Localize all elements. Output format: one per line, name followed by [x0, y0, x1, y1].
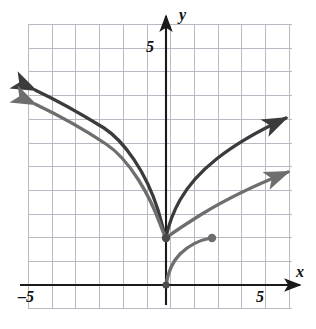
gridlines — [28, 24, 292, 309]
y-tick-label-5: 5 — [146, 38, 154, 56]
vertex-dot-at-0-1 — [162, 234, 170, 242]
y-axis-label: y — [179, 6, 186, 24]
point-dot-at-1p6-1 — [208, 234, 216, 242]
graph-figure: y x 5 5 –5 — [0, 0, 316, 329]
coordinate-plane-svg — [0, 0, 316, 329]
x-axis-label: x — [296, 263, 304, 281]
dark-sqrt-curve-right-branch — [166, 118, 286, 237]
vertex-dot-origin-branch — [162, 281, 169, 288]
x-tick-label-5: 5 — [256, 288, 264, 306]
x-tick-label-negative-5: –5 — [18, 288, 34, 306]
gray-sqrt-curve-right-branch — [167, 172, 289, 238]
